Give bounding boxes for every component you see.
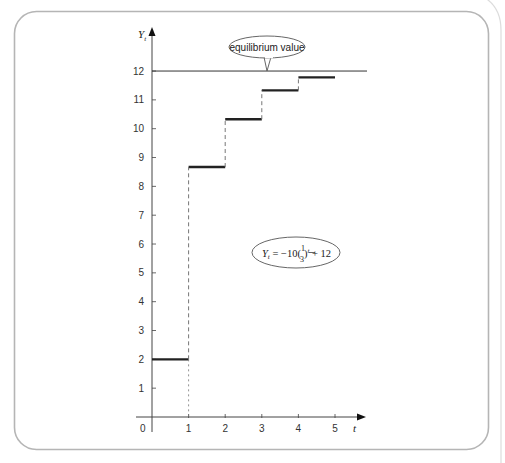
y-tick-label: 9	[138, 152, 144, 163]
y-axis-arrow-icon	[149, 27, 156, 36]
x-tick-label: 4	[296, 423, 302, 434]
chart-canvas: Ytt012345123456789101112equilibrium valu…	[0, 0, 505, 463]
y-tick-label: 8	[138, 181, 144, 192]
x-axis-label: t	[353, 422, 357, 434]
chart-frame	[15, 12, 489, 450]
x-tick-label: 2	[222, 423, 228, 434]
y-axis-label: Yt	[138, 28, 147, 43]
x-tick-label: 5	[332, 423, 338, 434]
x-tick-label: 3	[259, 423, 265, 434]
y-tick-label: 5	[138, 267, 144, 278]
x-tick-label-origin: 0	[140, 423, 146, 434]
y-tick-label: 7	[138, 210, 144, 221]
plot-area: Ytt012345123456789101112equilibrium valu…	[133, 27, 367, 434]
y-tick-label: 2	[138, 354, 144, 365]
y-tick-label: 3	[138, 325, 144, 336]
y-tick-label: 11	[134, 94, 145, 105]
y-tick-label: 10	[133, 123, 145, 134]
callout-pointer-icon	[264, 57, 271, 71]
y-tick-label: 12	[133, 66, 145, 77]
outer-frame-edge	[480, 0, 501, 463]
x-tick-label: 1	[186, 423, 192, 434]
y-tick-label: 1	[138, 383, 144, 394]
equilibrium-label: equilibrium value	[229, 42, 304, 53]
x-axis-arrow-icon	[357, 414, 366, 421]
y-tick-label: 6	[138, 239, 144, 250]
y-tick-label: 4	[138, 296, 144, 307]
